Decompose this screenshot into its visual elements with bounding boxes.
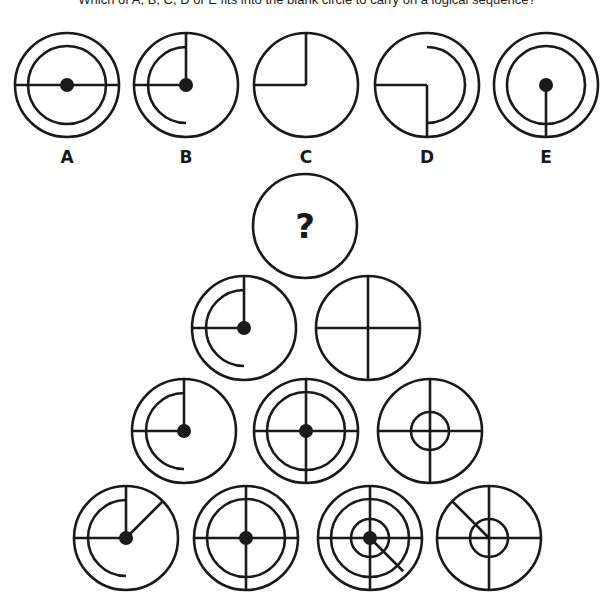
option-label: D	[420, 147, 434, 167]
center-dot	[237, 321, 251, 335]
option-e[interactable]: E	[494, 33, 598, 167]
center-dot	[177, 424, 191, 438]
circle-pyramid: ?	[74, 174, 541, 590]
center-dot	[539, 78, 553, 92]
center-dot	[179, 78, 193, 92]
center-dot	[363, 531, 377, 545]
pyramid-circle-r2c1	[192, 276, 296, 380]
option-b[interactable]: B	[134, 33, 238, 167]
pyramid-circle-r4c3	[318, 486, 422, 590]
option-label: E	[540, 147, 552, 167]
pyramid-circle-r3c3	[378, 379, 482, 483]
pyramid-circle-r3c1	[132, 379, 236, 483]
diagonal-line	[126, 501, 163, 538]
pyramid-circle-r2c2	[316, 276, 420, 380]
center-dot	[60, 78, 74, 92]
center-dot	[239, 531, 253, 545]
diagonal-line	[370, 538, 403, 571]
option-label: C	[300, 147, 312, 167]
option-d[interactable]: D	[375, 33, 479, 167]
option-label: A	[60, 147, 74, 167]
pyramid-circle-r4c1	[74, 486, 178, 590]
answer-options: ABCDE	[15, 33, 598, 167]
puzzle-figure: ABCDE ?	[0, 0, 614, 607]
question-mark: ?	[295, 206, 315, 246]
center-dot	[299, 424, 313, 438]
option-a[interactable]: A	[15, 33, 119, 167]
pyramid-circle-r4c2	[194, 486, 298, 590]
pyramid-circle-r3c2	[254, 379, 358, 483]
arc-right	[427, 47, 465, 123]
pyramid-circle-r4c4	[437, 486, 541, 590]
option-label: B	[180, 147, 193, 167]
option-c[interactable]: C	[254, 33, 358, 167]
center-dot	[119, 531, 133, 545]
blank-circle[interactable]: ?	[253, 174, 357, 278]
